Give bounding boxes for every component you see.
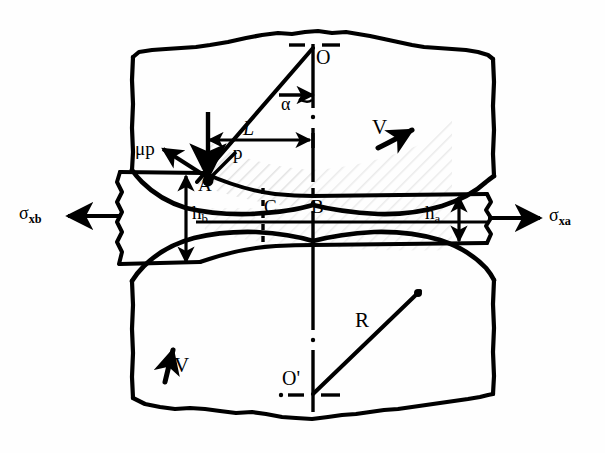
roll-radius-line (313, 289, 422, 394)
label-entry-thickness: hb (192, 203, 208, 226)
label-roll-center-bottom: O' (282, 368, 300, 388)
entry-thickness-base: h (192, 202, 202, 223)
rolling-mill-diagram (0, 0, 605, 453)
label-angle-alpha: α (281, 95, 290, 113)
label-friction-stress: μp (135, 139, 155, 158)
label-roll-radius: R (355, 310, 369, 331)
label-back-tension: σxb (19, 204, 42, 225)
label-normal-pressure: p (233, 143, 243, 162)
figure-canvas: O O' α L p μp A C B hb ha σxb σxa R V V (0, 0, 605, 453)
exit-thickness-base: h (425, 202, 435, 223)
label-point-A: A (198, 175, 212, 194)
back-tension-subscript: xb (29, 212, 42, 226)
exit-thickness-subscript: a (435, 211, 441, 226)
label-exit-thickness: ha (425, 203, 440, 226)
front-tension-base: σ (549, 205, 559, 225)
label-velocity-bottom: V (174, 355, 189, 376)
label-point-B: B (311, 197, 324, 216)
back-tension-base: σ (19, 203, 29, 223)
label-front-tension: σxa (549, 206, 571, 227)
label-velocity-top: V (372, 117, 387, 138)
velocity-arrow-bottom (165, 350, 173, 382)
label-point-C: C (264, 197, 277, 216)
entry-thickness-subscript: b (202, 211, 208, 226)
label-roll-center-top: O (316, 47, 330, 67)
front-tension-subscript: xa (559, 214, 571, 228)
label-arc-length: L (243, 118, 254, 138)
